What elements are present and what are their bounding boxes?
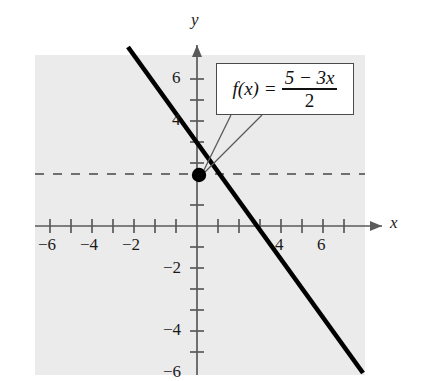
y-tick-label-neg2: −2 [163,258,181,278]
formula-lhs: f(x) [233,78,259,100]
formula-numerator: 5 − 3x [282,68,338,88]
y-intercept-point [192,168,206,182]
y-tick-label-4: 4 [172,110,181,130]
y-axis-arrow-icon [192,45,202,57]
x-tick-label-neg4: −4 [80,235,98,255]
x-tick-label-neg2: −2 [122,235,140,255]
y-tick-label-neg4: −4 [163,320,181,340]
formula-denominator: 2 [302,90,318,110]
function-formula-callout: f(x) = 5 − 3x 2 [216,63,354,115]
x-axis-label: x [390,213,398,233]
x-tick-label-4: 4 [275,235,284,255]
y-tick-label-neg6: −6 [163,362,181,381]
y-axis-label: y [191,10,199,30]
formula-fraction: 5 − 3x 2 [282,68,338,110]
x-tick-label-neg6: −6 [38,235,56,255]
x-tick-label-6: 6 [317,235,326,255]
formula-equals: = [265,78,276,100]
y-tick-label-6: 6 [172,68,181,88]
x-axis-arrow-icon [370,221,382,231]
